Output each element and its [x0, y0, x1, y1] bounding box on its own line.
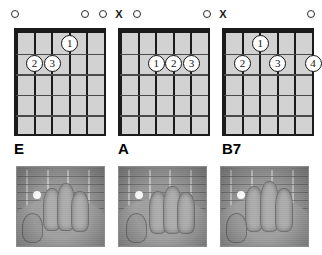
- string-line: [242, 33, 244, 134]
- cross-icon: X: [218, 8, 229, 21]
- fret-line: [224, 74, 312, 76]
- finger-position-dot: 3: [269, 55, 286, 72]
- string-line: [277, 33, 279, 134]
- circle-icon: [81, 10, 89, 18]
- open-muted-marker-row: X: [222, 8, 314, 22]
- string-line: [208, 33, 210, 134]
- chord-chart-sheet: 123 E X 123 A X 1234 B7: [0, 0, 322, 255]
- fret-line: [120, 95, 208, 97]
- finger-position-dot: 2: [234, 55, 251, 72]
- finger-position-dot: 1: [148, 55, 165, 72]
- nut-bar: [14, 28, 106, 33]
- photo-grain: [17, 167, 104, 246]
- muted-string-marker: X: [114, 8, 125, 21]
- string-line: [224, 33, 226, 134]
- open-string-marker: [202, 8, 213, 21]
- open-muted-marker-row: X: [118, 8, 210, 22]
- fret-line: [16, 74, 104, 76]
- open-string-marker: [98, 8, 109, 21]
- fret-line: [16, 95, 104, 97]
- open-string-marker: [80, 8, 91, 21]
- string-line: [190, 33, 192, 134]
- fret-line: [224, 95, 312, 97]
- chord-name-label: B7: [222, 140, 241, 157]
- finger-position-dot: 1: [252, 35, 269, 52]
- string-line: [294, 33, 296, 134]
- open-string-marker: [131, 8, 142, 21]
- circle-icon: [99, 10, 107, 18]
- string-line: [51, 33, 53, 134]
- fret-line: [224, 115, 312, 117]
- finger-position-dot: 4: [305, 55, 322, 72]
- fret-line: [16, 115, 104, 117]
- chord-name-label: A: [118, 140, 129, 157]
- string-line: [104, 33, 106, 134]
- hand-position-photo: [220, 166, 309, 247]
- chord-diagram-e: 123 E: [4, 0, 108, 160]
- string-line: [155, 33, 157, 134]
- photo-content: [119, 167, 206, 246]
- circle-icon: [133, 10, 141, 18]
- chord-diagram-a: X 123 A: [108, 0, 212, 160]
- open-muted-marker-row: [14, 8, 106, 22]
- string-line: [120, 33, 122, 134]
- cross-icon: X: [114, 8, 125, 21]
- hand-position-photo: [118, 166, 207, 247]
- string-line: [86, 33, 88, 134]
- photo-grain: [221, 167, 308, 246]
- finger-position-dot: 3: [44, 55, 61, 72]
- nut-bar: [222, 28, 314, 33]
- circle-icon: [11, 10, 19, 18]
- photo-content: [17, 167, 104, 246]
- circle-icon: [203, 10, 211, 18]
- fret-line: [120, 115, 208, 117]
- finger-position-dot: 2: [165, 55, 182, 72]
- fret-line: [224, 54, 312, 56]
- string-line: [16, 33, 18, 134]
- string-line: [173, 33, 175, 134]
- finger-position-dot: 3: [183, 55, 200, 72]
- fretboard-grid: 1234: [222, 28, 314, 136]
- muted-string-marker: X: [218, 8, 229, 21]
- fretboard-grid: 123: [118, 28, 210, 136]
- string-line: [34, 33, 36, 134]
- chord-diagram-b7: X 1234 B7: [212, 0, 316, 160]
- hand-position-photo: [16, 166, 105, 247]
- fret-line: [16, 54, 104, 56]
- string-line: [138, 33, 140, 134]
- nut-bar: [118, 28, 210, 33]
- open-string-marker: [10, 8, 21, 21]
- finger-position-dot: 2: [26, 55, 43, 72]
- string-line: [312, 33, 314, 134]
- circle-icon: [307, 10, 315, 18]
- fretboard-grid: 123: [14, 28, 106, 136]
- fret-line: [120, 74, 208, 76]
- chord-name-label: E: [14, 140, 24, 157]
- finger-position-dot: 1: [61, 35, 78, 52]
- photo-grain: [119, 167, 206, 246]
- open-string-marker: [306, 8, 317, 21]
- photo-content: [221, 167, 308, 246]
